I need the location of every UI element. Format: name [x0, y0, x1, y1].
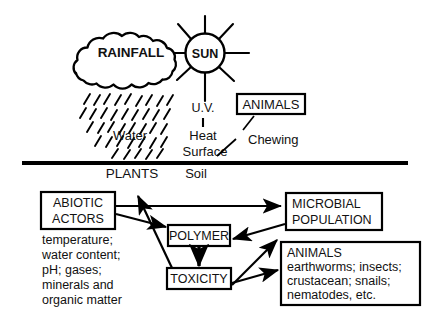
abiotic-list-item: water content;: [41, 248, 121, 262]
arrow-toxicity-to-animals: [232, 270, 278, 283]
animals-lower-list-item: crustacean; snails;: [287, 274, 391, 288]
ecology-soil-degradation-diagram: SUN RAINFALL: [0, 0, 428, 323]
abiotic-actors-list: temperature; water content; pH; gases; m…: [41, 233, 122, 307]
microbial-line1: MICROBIAL: [292, 197, 361, 211]
arrow-abiotic-to-polymer: [116, 214, 166, 227]
chewing-label: Chewing: [248, 132, 299, 147]
rain-dashes: [80, 94, 173, 159]
arrow-microbial-to-polymer: [233, 224, 285, 239]
soil-label: Soil: [185, 166, 207, 181]
polymer-label: POLYMER: [169, 229, 229, 243]
chewing-leader-upper: [243, 116, 254, 130]
abiotic-list-item: pH; gases;: [42, 263, 102, 277]
animals-lower-list-item: nematodes, etc.: [287, 288, 376, 302]
arrow-toxicity-to-microbial: [232, 240, 277, 285]
abiotic-list-item: minerals and: [42, 278, 114, 292]
sun-label: SUN: [192, 47, 218, 61]
abiotic-actors-line1: ABIOTIC: [53, 196, 103, 210]
abiotic-list-item: temperature;: [42, 233, 113, 247]
plants-label: PLANTS: [106, 166, 159, 181]
cloud-icon: [74, 33, 176, 89]
abiotic-actors-line2: ACTORS: [52, 212, 104, 226]
heat-label: Heat: [189, 128, 217, 143]
microbial-line2: POPULATION: [292, 213, 372, 227]
surface-label: Surface: [183, 144, 228, 159]
water-label: Water: [113, 128, 148, 143]
abiotic-list-item: organic matter: [42, 293, 122, 307]
animals-lower-heading: ANIMALS: [287, 246, 342, 260]
cloud-label-rainfall: RAINFALL: [98, 45, 165, 60]
animals-lower-list-item: earthworms; insects;: [287, 260, 402, 274]
uv-label: U.V.: [191, 101, 214, 115]
toxicity-label: TOXICITY: [170, 272, 228, 286]
animals-box-upper-label: ANIMALS: [242, 97, 299, 112]
